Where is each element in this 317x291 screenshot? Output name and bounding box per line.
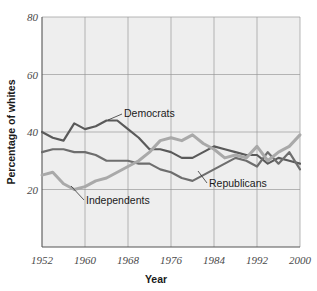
series-label-democrats: Democrats xyxy=(124,107,175,119)
y-tick-40: 40 xyxy=(27,126,39,138)
x-tick-1992: 1992 xyxy=(246,254,269,266)
x-axis-title: Year xyxy=(145,273,167,285)
x-tick-2000: 2000 xyxy=(289,254,312,266)
y-axis-title: Percentage of whites xyxy=(5,79,17,184)
y-axis-tick-labels: 20406080 xyxy=(27,11,39,196)
y-tick-80: 80 xyxy=(27,11,39,23)
x-tick-1960: 1960 xyxy=(74,254,97,266)
x-tick-1976: 1976 xyxy=(160,254,183,266)
series-label-independents: Independents xyxy=(86,194,150,206)
series-label-republicans: Republicans xyxy=(209,177,267,189)
line-chart-party-identification: 20406080 1952196019681976198419922000 Ye… xyxy=(0,0,317,291)
x-axis-tick-labels: 1952196019681976198419922000 xyxy=(31,254,312,266)
x-tick-1952: 1952 xyxy=(31,254,54,266)
y-tick-60: 60 xyxy=(27,69,39,81)
x-tick-1984: 1984 xyxy=(203,254,226,266)
x-tick-1968: 1968 xyxy=(117,254,140,266)
chart-canvas: 20406080 1952196019681976198419922000 Ye… xyxy=(0,0,317,291)
y-tick-20: 20 xyxy=(27,184,39,196)
